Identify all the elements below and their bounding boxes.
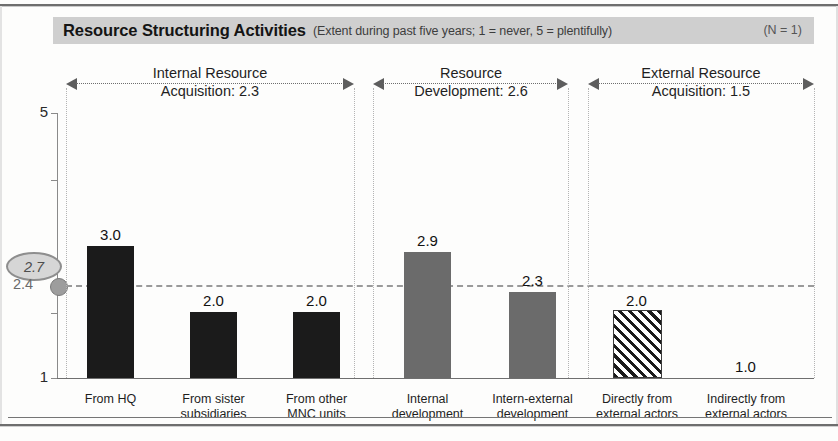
x-axis-baseline (57, 378, 814, 379)
bar-column-from-hq[interactable]: 3.0 (87, 113, 134, 378)
group-title-line1: External Resource (600, 64, 802, 82)
y-axis-label-max: 5 (14, 103, 48, 120)
bar-value-label: 2.0 (613, 292, 660, 309)
bar-internal-development[interactable] (404, 252, 451, 378)
bottom-label-rule (8, 417, 832, 418)
bar-value-label: 2.3 (509, 272, 556, 289)
bar-value-label: 1.0 (722, 358, 769, 375)
bar-intern-external-development[interactable] (509, 292, 556, 378)
bar-column-indirectly-from-external-actors[interactable]: 1.0 (722, 113, 769, 378)
group-title-line2: Acquisition: 1.5 (600, 82, 802, 100)
group-separator-left (66, 88, 67, 378)
group-separator-1b (373, 88, 374, 378)
bar-column-intern-external-development[interactable]: 2.3 (509, 113, 556, 378)
group-title-resource-development: Resource Development: 2.6 (385, 64, 557, 100)
y-axis-tick-4 (51, 180, 58, 181)
bar-value-label: 2.0 (293, 292, 340, 309)
bar-from-sister-subsidiaries[interactable] (190, 312, 237, 378)
bar-from-hq[interactable] (87, 246, 134, 379)
arrow-right-icon (803, 78, 814, 90)
bar-column-internal-development[interactable]: 2.9 (404, 113, 451, 378)
bar-column-from-other-mnc-units[interactable]: 2.0 (293, 113, 340, 378)
arrow-left-icon (588, 78, 599, 90)
arrow-left-icon (373, 78, 384, 90)
group-title-line2: Acquisition: 2.3 (110, 82, 310, 100)
bar-value-label: 2.9 (404, 232, 451, 249)
group-separator-2b (588, 88, 589, 378)
bar-value-label: 2.0 (190, 292, 237, 309)
group-title-line2: Development: 2.6 (385, 82, 557, 100)
arrow-right-icon (343, 78, 354, 90)
group-title-line1: Internal Resource (110, 64, 310, 82)
group-separator-1a (354, 88, 355, 378)
bar-column-from-sister-subsidiaries[interactable]: 2.0 (190, 113, 237, 378)
reference-value-label: 2.4 (13, 276, 33, 292)
arrow-left-icon (66, 78, 77, 90)
group-title-internal-acquisition: Internal Resource Acquisition: 2.3 (110, 64, 310, 100)
group-title-line1: Resource (385, 64, 557, 82)
y-axis-tick-5 (51, 113, 58, 114)
x-axis-label-from-hq: From HQ (63, 392, 158, 407)
y-axis-label-min: 1 (14, 368, 48, 385)
group-separator-right (814, 88, 815, 378)
bar-directly-from-external-actors[interactable] (613, 310, 662, 378)
bar-column-directly-from-external-actors[interactable]: 2.0 (613, 113, 660, 378)
group-title-external-acquisition: External Resource Acquisition: 1.5 (600, 64, 802, 100)
group-separator-2a (568, 88, 569, 378)
y-axis-tick-2 (51, 313, 58, 314)
arrow-right-icon (557, 78, 568, 90)
bar-value-label: 3.0 (87, 226, 134, 243)
chart-plot-area: 5 1 2.7 2.4 Internal Resource Acquisitio… (0, 0, 838, 441)
bar-from-other-mnc-units[interactable] (293, 312, 340, 378)
y-axis-line (57, 113, 58, 379)
